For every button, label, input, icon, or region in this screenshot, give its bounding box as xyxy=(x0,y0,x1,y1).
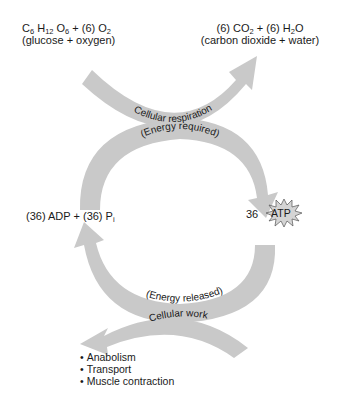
cycle-diagram: Cellular respiration (Energy required) (… xyxy=(0,0,341,401)
list-item: Muscle contraction xyxy=(80,375,174,387)
adp-pi-label: (36) ADP + (36) Pi xyxy=(26,210,115,222)
cellular-work-list: Anabolism Transport Muscle contraction xyxy=(80,351,174,387)
atp-count: 36 xyxy=(246,208,258,220)
products-names: (carbon dioxide + water) xyxy=(200,34,320,46)
reactants-formula: C6 H12 O6 + (6) O2 xyxy=(22,22,111,34)
list-item: Transport xyxy=(80,363,174,375)
reactants-names: (glucose + oxygen) xyxy=(22,34,115,46)
atp-label: ATP xyxy=(271,207,291,219)
products-formula: (6) CO2 + (6) H2O xyxy=(205,22,315,34)
list-item: Anabolism xyxy=(80,351,174,363)
energy-required-arrow xyxy=(80,118,278,218)
